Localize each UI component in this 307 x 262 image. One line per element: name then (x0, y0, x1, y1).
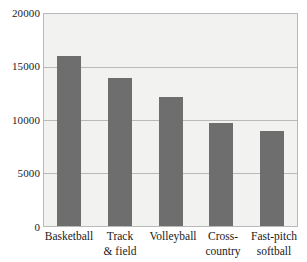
x-tick-label-fast-pitch-softball-line1: Fast-pitch (237, 229, 307, 244)
bar-chart: 20000 15000 10000 5000 0 Basketball Trac… (0, 0, 307, 262)
bar-cross-country (209, 123, 233, 226)
y-tick-label-15000: 15000 (0, 61, 40, 72)
x-tick-label-fast-pitch-softball: Fast-pitch softball (237, 229, 307, 259)
x-tick-label-fast-pitch-softball-line2: softball (237, 244, 307, 259)
bar-volleyball (159, 97, 183, 226)
x-tick-label-track-and-field-line2: & field (89, 244, 151, 259)
x-axis: Basketball Track & field Volleyball Cros… (43, 229, 298, 262)
plot-area (43, 13, 298, 227)
bar-track-and-field (108, 78, 132, 226)
y-tick-label-20000: 20000 (0, 8, 40, 19)
y-axis: 20000 15000 10000 5000 0 (0, 0, 40, 262)
bars-layer (44, 14, 297, 226)
y-tick-label-5000: 5000 (0, 168, 40, 179)
y-tick-label-10000: 10000 (0, 115, 40, 126)
bar-fast-pitch-softball (260, 131, 284, 226)
bar-basketball (57, 56, 81, 226)
